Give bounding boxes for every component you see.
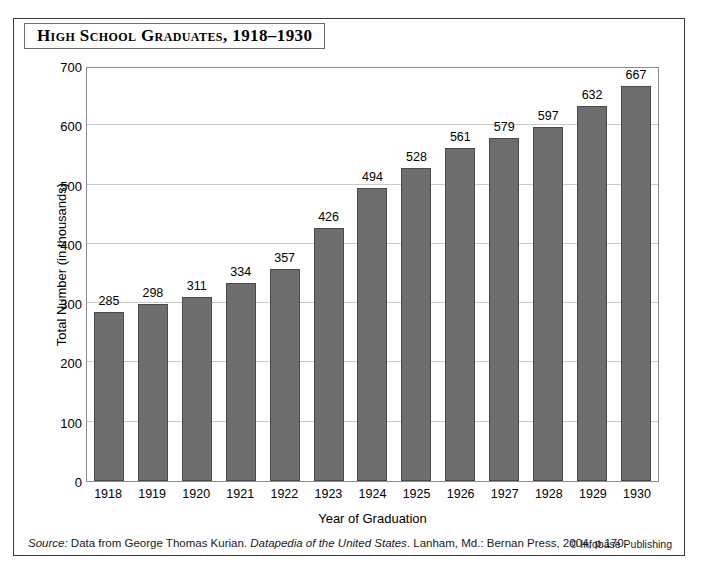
bar[interactable]: 597 [533,127,563,481]
y-axis-tick-label: 400 [38,237,82,252]
bar[interactable]: 334 [226,283,256,481]
plot-wrapper: Total Number (in thousands) 700600500400… [14,19,686,557]
bar[interactable]: 311 [182,297,212,481]
bar-value-label: 494 [362,170,383,184]
bar-value-label: 285 [99,294,120,308]
y-axis-tick-label: 300 [38,297,82,312]
bar-value-label: 311 [187,279,207,293]
bar-slot: 632 [570,68,614,481]
y-axis-tick-label: 0 [38,475,82,490]
x-axis-tick-label: 1929 [571,487,615,501]
plot-area: 285298311334357426494528561579597632667 [86,67,659,482]
x-axis-ticks: 1918191919201921192219231924192519261927… [86,487,659,501]
y-axis-tick-label: 700 [38,60,82,75]
bar[interactable]: 632 [577,106,607,481]
source-label: Source: [28,537,68,549]
y-axis-tick-label: 600 [38,119,82,134]
bar-value-label: 579 [494,120,515,134]
bar-slot: 357 [263,68,307,481]
x-axis-tick-label: 1924 [350,487,394,501]
x-axis-tick-label: 1920 [174,487,218,501]
x-axis-tick-label: 1927 [483,487,527,501]
bar-value-label: 298 [142,286,163,300]
bar[interactable]: 357 [270,269,300,481]
bar-slot: 494 [351,68,395,481]
bar-value-label: 667 [626,68,647,82]
bar-slot: 579 [482,68,526,481]
bar-series: 285298311334357426494528561579597632667 [87,68,658,481]
bar-value-label: 632 [582,88,603,102]
x-axis-tick-label: 1922 [262,487,306,501]
bar-value-label: 528 [406,150,427,164]
bar-value-label: 357 [274,251,295,265]
x-axis-tick-label: 1925 [395,487,439,501]
bar[interactable]: 561 [445,148,475,481]
bar-slot: 597 [526,68,570,481]
source-publication-title: Datapedia of the United States [250,537,407,549]
bar-value-label: 597 [538,109,559,123]
bar-value-label: 561 [450,130,471,144]
chart-figure: High School Graduates, 1918–1930 Total N… [13,18,685,556]
bar-slot: 667 [614,68,658,481]
x-axis-tick-label: 1919 [130,487,174,501]
bar[interactable]: 285 [94,312,124,481]
x-axis-tick-label: 1918 [86,487,130,501]
source-note: Source: Data from George Thomas Kurian. … [28,537,627,549]
x-axis-tick-label: 1921 [218,487,262,501]
x-axis-tick-label: 1930 [615,487,659,501]
bar[interactable]: 426 [314,228,344,481]
bar-slot: 298 [131,68,175,481]
bar-value-label: 334 [230,265,251,279]
bar-slot: 334 [219,68,263,481]
bar[interactable]: 298 [138,304,168,481]
source-text-part1: Data from George Thomas Kurian. [68,537,251,549]
y-axis-tick-label: 200 [38,356,82,371]
y-axis-ticks: 7006005004003002001000 [34,67,82,482]
bar[interactable]: 667 [621,86,651,481]
bar-slot: 528 [394,68,438,481]
x-axis-tick-label: 1926 [439,487,483,501]
bar-slot: 426 [307,68,351,481]
x-axis-title: Year of Graduation [86,511,659,526]
bar-value-label: 426 [318,210,339,224]
bar[interactable]: 579 [489,138,519,481]
bar-slot: 285 [87,68,131,481]
x-axis-tick-label: 1928 [527,487,571,501]
y-axis-tick-label: 500 [38,178,82,193]
bar[interactable]: 528 [401,168,431,481]
x-axis-tick-label: 1923 [306,487,350,501]
bar-slot: 561 [438,68,482,481]
bar[interactable]: 494 [357,188,387,481]
y-axis-tick-label: 100 [38,415,82,430]
bar-slot: 311 [175,68,219,481]
copyright-credit: © Infobase Publishing [570,538,672,550]
